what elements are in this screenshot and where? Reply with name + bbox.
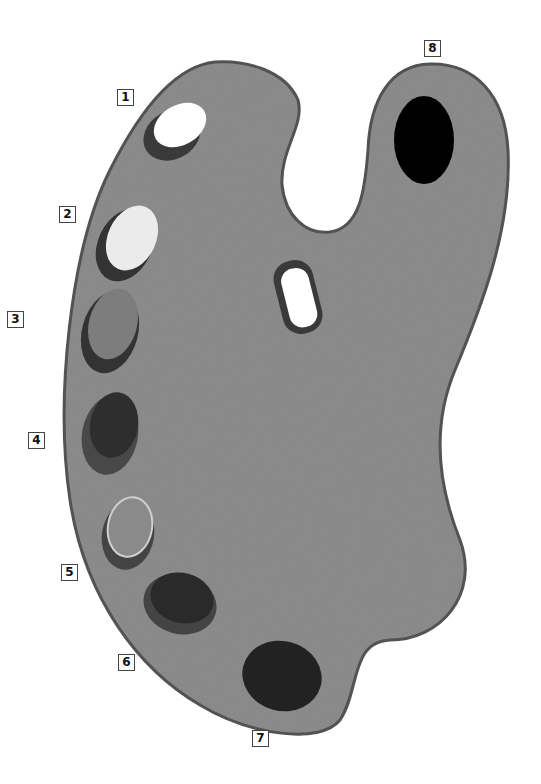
label-1: 1 <box>117 89 134 106</box>
label-3: 3 <box>7 311 24 328</box>
label-8: 8 <box>424 40 441 57</box>
label-5: 5 <box>61 564 78 581</box>
label-2: 2 <box>59 206 76 223</box>
label-4: 4 <box>28 432 45 449</box>
label-7: 7 <box>252 730 269 747</box>
palette-illustration <box>0 0 541 784</box>
label-6: 6 <box>118 654 135 671</box>
palette-diagram: 1 2 3 4 5 6 7 8 <box>0 0 541 784</box>
paint-8 <box>394 96 454 184</box>
